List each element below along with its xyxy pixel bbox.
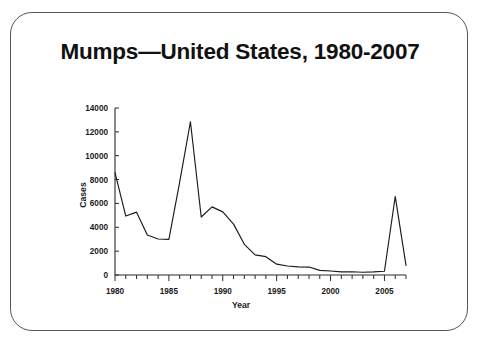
y-tick-label: 12000 [85, 128, 108, 137]
y-tick-label: 6000 [90, 199, 109, 208]
mumps-cases-series [115, 122, 406, 272]
y-axis-ticks: 02000400060008000100001200014000 [85, 104, 119, 280]
x-tick-label: 1985 [160, 287, 179, 296]
chart-svg: Cases 02000400060008000100001200014000 1… [11, 75, 469, 325]
x-tick-label: 2000 [321, 287, 340, 296]
y-tick-label: 4000 [90, 223, 109, 232]
axis-lines [115, 108, 406, 275]
mumps-line-chart: Cases 02000400060008000100001200014000 1… [11, 75, 469, 325]
x-tick-label: 2005 [375, 287, 394, 296]
x-tick-label: 1995 [268, 287, 287, 296]
y-tick-label: 0 [103, 271, 108, 280]
y-tick-label: 2000 [90, 247, 109, 256]
x-tick-label: 1990 [214, 287, 233, 296]
y-axis-title: Cases [78, 182, 88, 208]
y-tick-label: 8000 [90, 176, 109, 185]
y-tick-label: 10000 [85, 152, 108, 161]
x-tick-label: 1980 [106, 287, 125, 296]
slide-frame: Mumps—United States, 1980-2007 Cases 020… [10, 12, 468, 331]
x-axis-ticks: 198019851990199520002005 [106, 275, 406, 296]
y-tick-label: 14000 [85, 104, 108, 113]
page-title: Mumps—United States, 1980-2007 [11, 39, 469, 65]
x-axis-title: Year [232, 300, 251, 310]
